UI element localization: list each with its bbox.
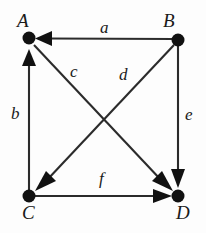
edge-a-arrowhead xyxy=(35,31,52,46)
node-C-dot[interactable] xyxy=(23,190,36,203)
edge-b-arrowhead xyxy=(22,49,36,66)
edge-e-arrowhead xyxy=(171,169,185,188)
node-label-D: D xyxy=(176,203,190,222)
edge-label-d: d xyxy=(119,66,128,83)
node-label-A: A xyxy=(17,11,29,30)
edge-d-line xyxy=(34,45,161,180)
edge-f xyxy=(32,189,172,203)
edge-c-line xyxy=(47,45,174,180)
edge-f-arrowhead xyxy=(153,189,172,203)
node-A-dot[interactable] xyxy=(23,32,36,45)
edge-label-f: f xyxy=(99,170,104,187)
edge-a-line xyxy=(48,39,175,40)
edge-b xyxy=(22,49,36,193)
graph-diagram: A B C D a b c d e f xyxy=(0,0,206,233)
node-label-B: B xyxy=(163,11,175,30)
node-label-C: C xyxy=(22,203,35,222)
edge-e xyxy=(171,44,185,188)
edge-label-a: a xyxy=(100,19,109,36)
edge-label-e: e xyxy=(185,106,193,123)
edge-label-b: b xyxy=(11,105,20,122)
edge-label-c: c xyxy=(70,63,78,80)
node-B-dot[interactable] xyxy=(172,34,185,47)
node-D-dot[interactable] xyxy=(172,190,185,203)
